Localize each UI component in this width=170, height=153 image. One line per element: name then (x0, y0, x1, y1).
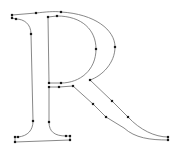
bezier-node-handle[interactable] (89, 79, 91, 81)
bezier-node-handle[interactable] (11, 14, 13, 16)
bezier-node-handle[interactable] (92, 103, 94, 105)
bezier-node-handle[interactable] (35, 12, 37, 14)
bezier-node-handle[interactable] (114, 46, 116, 48)
bezier-node-handle[interactable] (127, 116, 129, 118)
bezier-node-handle[interactable] (58, 86, 60, 88)
bezier-node-handle[interactable] (69, 135, 71, 137)
bezier-node-handle[interactable] (111, 100, 113, 102)
bezier-node-handle[interactable] (15, 18, 17, 20)
bezier-node-handle[interactable] (17, 136, 19, 138)
bezier-node-handle[interactable] (60, 11, 62, 13)
inner-bowl-contour (48, 16, 96, 83)
bezier-node-handle[interactable] (47, 16, 49, 18)
bezier-node-handle[interactable] (167, 136, 169, 138)
glyph-outline-canvas (0, 0, 170, 153)
bezier-node-handle[interactable] (105, 116, 107, 118)
bezier-node-handle[interactable] (32, 120, 34, 122)
bezier-node-handle[interactable] (56, 15, 58, 17)
bezier-node-handle[interactable] (48, 121, 50, 123)
glyph-nodes (11, 11, 169, 143)
bezier-node-handle[interactable] (72, 85, 74, 87)
bezier-node-handle[interactable] (30, 33, 32, 35)
bezier-node-handle[interactable] (14, 136, 16, 138)
bezier-node-handle[interactable] (60, 82, 62, 84)
bezier-node-handle[interactable] (48, 82, 50, 84)
bezier-node-handle[interactable] (69, 139, 71, 141)
bezier-node-handle[interactable] (167, 139, 169, 141)
bezier-node-handle[interactable] (14, 141, 16, 143)
bezier-node-handle[interactable] (95, 48, 97, 50)
outer-contour (12, 12, 168, 142)
bezier-node-handle[interactable] (48, 86, 50, 88)
bezier-node-handle[interactable] (65, 135, 67, 137)
glyph-contours (12, 12, 168, 142)
bezier-node-handle[interactable] (11, 17, 13, 19)
